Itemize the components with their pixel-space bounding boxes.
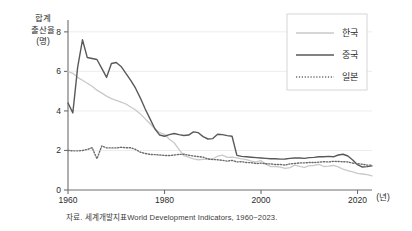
- y-tick-label: 4: [56, 106, 61, 116]
- source-caption: 자료. 세계개발지표World Development Indicators, …: [66, 211, 277, 222]
- fertility-rate-chart-figure: 합계 출산율 (명) 02468 1960198020002020 (년) 한국…: [0, 0, 412, 231]
- line-chart-svg: 02468 1960198020002020 (년) 한국중국일본: [0, 0, 412, 231]
- x-tick-label: 2000: [252, 195, 271, 205]
- y-axis-ticks: 02468: [56, 27, 68, 195]
- x-tick-label: 1960: [59, 195, 78, 205]
- legend-label-중국: 중국: [342, 50, 358, 60]
- x-axis-ticks: 1960198020002020: [59, 190, 368, 205]
- y-tick-label: 8: [56, 27, 61, 37]
- y-tick-label: 0: [56, 185, 61, 195]
- legend-label-한국: 한국: [342, 28, 358, 38]
- legend-label-일본: 일본: [342, 72, 358, 82]
- legend: 한국중국일본: [287, 14, 367, 90]
- x-tick-label: 2020: [348, 195, 367, 205]
- y-tick-label: 2: [56, 145, 61, 155]
- y-tick-label: 6: [56, 66, 61, 76]
- x-axis-unit-label: (년): [376, 192, 390, 202]
- x-tick-label: 1980: [155, 195, 174, 205]
